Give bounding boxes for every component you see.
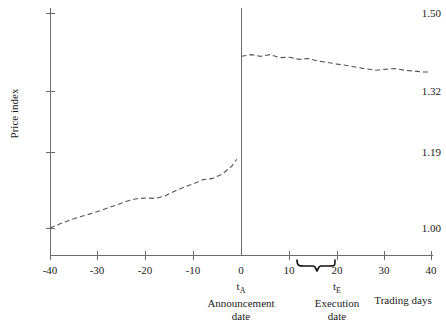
series-line-pre-announcement [50,159,237,228]
series-line-post-announcement [242,55,429,72]
